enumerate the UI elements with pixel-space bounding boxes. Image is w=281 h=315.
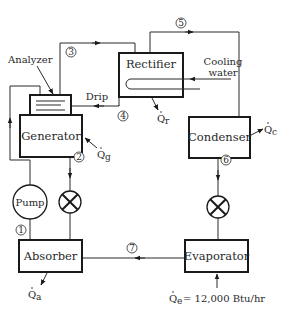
analyzer-label: Analyzer bbox=[7, 54, 53, 65]
heat-arrow-rectifier bbox=[152, 98, 158, 110]
state-point-7: 7 bbox=[127, 243, 137, 253]
drip-label: Drip bbox=[86, 91, 108, 102]
generator-label: Generator bbox=[21, 129, 81, 143]
svg-text:Q: Q bbox=[28, 289, 36, 300]
state-point-5: 5 bbox=[176, 18, 186, 28]
rectifier-label: Rectifier bbox=[126, 57, 177, 71]
analyzer-pointer bbox=[37, 66, 53, 94]
svg-text:Q: Q bbox=[169, 293, 177, 304]
cooling-water-label-1: Cooling bbox=[204, 56, 244, 67]
pump: Pump bbox=[13, 185, 47, 219]
svg-text:g: g bbox=[105, 152, 111, 162]
heat-label-rectifier: Q r bbox=[157, 111, 170, 126]
state-point-4: 4 bbox=[118, 111, 128, 121]
cooling-water-label-2: water bbox=[208, 67, 237, 78]
absorber: Absorber bbox=[19, 240, 82, 272]
svg-text:c: c bbox=[272, 127, 277, 137]
heat-label-absorber: Q a bbox=[28, 287, 42, 302]
svg-text:4: 4 bbox=[120, 111, 126, 121]
heat-arrow-condenser bbox=[251, 129, 263, 135]
svg-text:= 12,000 Btu/hr: = 12,000 Btu/hr bbox=[183, 293, 265, 304]
svg-text:7: 7 bbox=[129, 243, 135, 253]
pump-label: Pump bbox=[15, 197, 44, 208]
svg-text:a: a bbox=[36, 292, 42, 302]
analyzer bbox=[30, 95, 71, 115]
heat-label-condenser: Q c bbox=[264, 122, 277, 137]
svg-text:Q: Q bbox=[264, 124, 272, 135]
state-point-2: 2 bbox=[74, 152, 84, 162]
rectifier: Rectifier bbox=[119, 53, 200, 97]
evaporator-label: Evaporator bbox=[184, 249, 250, 263]
svg-text:6: 6 bbox=[223, 155, 229, 165]
expansion-valve-solution bbox=[59, 191, 81, 213]
absorber-label: Absorber bbox=[23, 249, 78, 263]
state-point-6: 6 bbox=[221, 155, 231, 165]
heat-label-generator: Q g bbox=[97, 147, 111, 162]
expansion-valve-refrigerant bbox=[207, 196, 229, 218]
svg-text:r: r bbox=[165, 116, 170, 126]
svg-text:Q: Q bbox=[157, 113, 165, 124]
generator: Generator bbox=[20, 115, 82, 157]
svg-text:1: 1 bbox=[18, 225, 24, 235]
heat-arrow-generator bbox=[85, 138, 97, 148]
state-point-3: 3 bbox=[66, 47, 76, 57]
svg-text:3: 3 bbox=[68, 47, 74, 57]
condenser: Condenser bbox=[188, 117, 251, 158]
svg-text:2: 2 bbox=[76, 152, 82, 162]
heat-arrow-absorber bbox=[41, 273, 47, 285]
condenser-label: Condenser bbox=[188, 130, 251, 144]
absorption-refrigeration-diagram: Generator Analyzer Rectifier Cooling wat… bbox=[0, 0, 281, 315]
svg-text:5: 5 bbox=[178, 18, 184, 28]
svg-text:Q: Q bbox=[97, 149, 105, 160]
state-point-1: 1 bbox=[16, 225, 26, 235]
svg-text:e: e bbox=[177, 296, 182, 306]
heat-label-evaporator: Q e = 12,000 Btu/hr bbox=[169, 291, 265, 306]
evaporator: Evaporator bbox=[184, 240, 250, 272]
